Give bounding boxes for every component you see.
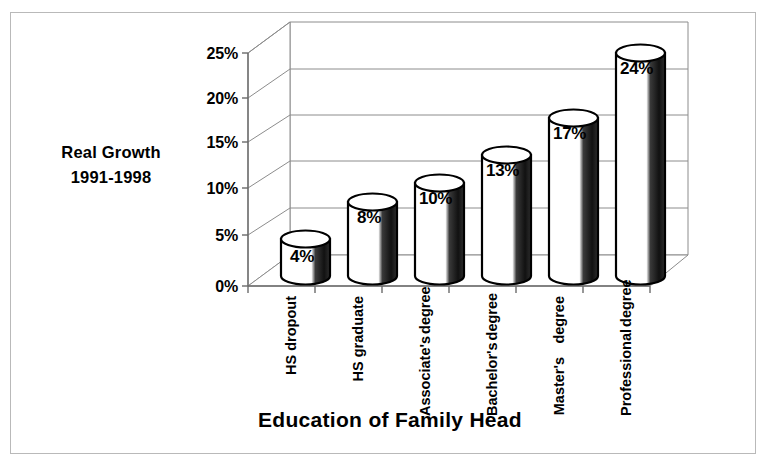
category-label-bachelors-degree: Bachelor's degree	[484, 296, 524, 416]
category-line: Bachelor's	[484, 342, 501, 416]
category-label-hs-graduate: HS graduate	[350, 296, 390, 416]
chart-container: 0% 5% 10% 15% 20% 25% 4% 8% 10% 13% 17% …	[0, 0, 768, 466]
y-axis-caption-line1: Real Growth	[26, 140, 196, 165]
y-axis-caption: Real Growth 1991-1998	[26, 140, 196, 190]
category-line: degree	[484, 293, 501, 341]
x-axis-category-labels: HS dropout HS graduate Associate's degre…	[0, 0, 768, 466]
category-line: degree	[551, 296, 568, 355]
category-label-professional-degree: Professional degree	[618, 296, 658, 416]
category-label-hs-dropout: HS dropout	[283, 296, 323, 416]
y-axis-caption-line2: 1991-1998	[26, 165, 196, 190]
category-line: Professional	[618, 329, 635, 416]
category-line: HS graduate	[350, 296, 367, 416]
x-axis-title: Education of Family Head	[180, 408, 600, 432]
category-line: degree	[618, 279, 635, 327]
category-line: degree	[417, 286, 434, 334]
category-label-masters-degree: Master's degree	[551, 296, 591, 416]
category-label-associates-degree: Associate's degree	[417, 296, 457, 416]
category-line: Associate's	[417, 336, 434, 416]
category-line: HS dropout	[283, 296, 300, 416]
